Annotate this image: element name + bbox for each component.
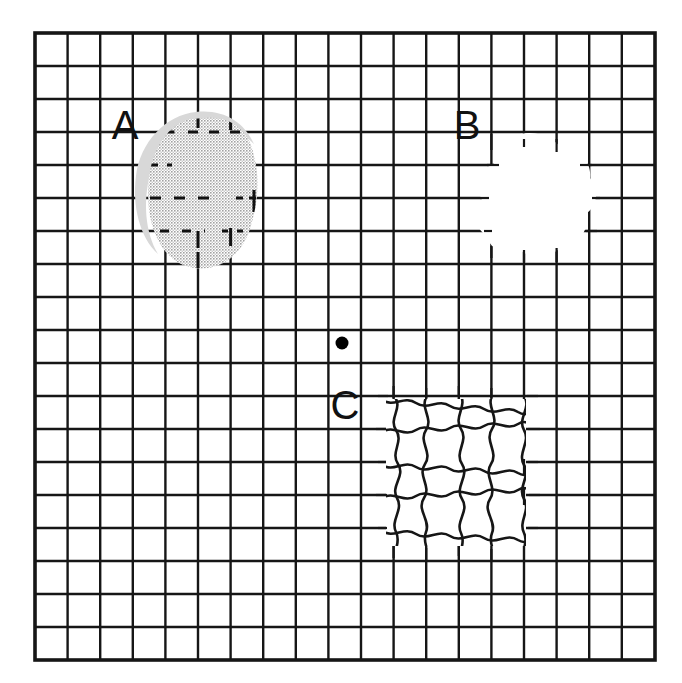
amsler-grid-figure: A B C xyxy=(0,0,682,683)
region-label-b: B xyxy=(454,103,481,147)
fixation-dot xyxy=(336,337,349,350)
region-label-c: C xyxy=(331,383,360,427)
region-c-wavy-distortion xyxy=(376,386,540,560)
region-label-a: A xyxy=(112,103,139,147)
region-a-stipple-mass xyxy=(148,118,258,269)
